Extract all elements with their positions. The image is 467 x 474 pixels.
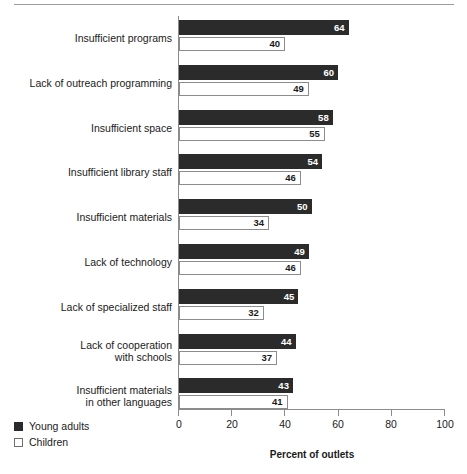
legend-label: Young adults [29, 420, 89, 432]
x-axis-tick-label: 80 [371, 418, 411, 430]
category-label: Insufficient library staff [0, 166, 172, 178]
bar-young-adults: 64 [179, 20, 349, 35]
bar-value-label: 55 [309, 129, 320, 139]
category-label: Lack of cooperation with schools [0, 339, 172, 363]
bar-value-label: 32 [248, 308, 259, 318]
legend-label: Children [29, 436, 68, 448]
bar-value-label: 60 [323, 68, 334, 78]
x-axis-tick [338, 410, 339, 416]
bar-value-label: 58 [318, 113, 329, 123]
bar-young-adults: 45 [179, 289, 298, 304]
bar-young-adults: 60 [179, 65, 338, 80]
x-axis-tick [231, 410, 232, 416]
legend-swatch-outlined-icon [14, 438, 23, 447]
x-axis-tick [391, 410, 392, 416]
bar-value-label: 45 [284, 292, 295, 302]
legend-item-children: Children [14, 434, 89, 450]
legend-swatch-filled-icon [14, 422, 23, 431]
x-axis-tick [284, 410, 285, 416]
bar-value-label: 41 [272, 397, 283, 407]
bar-value-label: 54 [308, 157, 319, 167]
category-label: Insufficient programs [0, 32, 172, 44]
bar-value-label: 34 [254, 218, 265, 228]
bar-value-label: 37 [261, 353, 272, 363]
bar-children: 34 [179, 216, 269, 230]
bar-value-label: 46 [285, 173, 296, 183]
x-axis-tick-label: 0 [159, 418, 199, 430]
chart-figure: Insufficient programs Lack of outreach p… [0, 0, 467, 474]
bar-children: 37 [179, 351, 277, 365]
bar-value-label: 44 [281, 337, 292, 347]
bar-value-label: 46 [285, 263, 296, 273]
bar-children: 49 [179, 82, 309, 96]
x-axis-tick [178, 410, 179, 416]
category-label: Insufficient space [0, 122, 172, 134]
bar-value-label: 49 [293, 84, 304, 94]
legend-item-young-adults: Young adults [14, 418, 89, 434]
category-label: Lack of specialized staff [0, 301, 172, 313]
x-axis-line [178, 409, 445, 410]
bar-young-adults: 58 [179, 110, 333, 125]
bar-value-label: 64 [334, 23, 345, 33]
category-label: Insufficient materials [0, 211, 172, 223]
bar-young-adults: 49 [179, 244, 309, 259]
bar-young-adults: 54 [179, 154, 322, 169]
category-label: Lack of technology [0, 256, 172, 268]
x-axis-tick-label: 40 [265, 418, 305, 430]
plot-area: Insufficient programs Lack of outreach p… [0, 0, 467, 474]
bar-children: 46 [179, 261, 301, 275]
x-axis-title: Percent of outlets [179, 449, 445, 460]
bar-children: 55 [179, 127, 325, 141]
bar-children: 32 [179, 306, 264, 320]
bar-value-label: 43 [278, 381, 289, 391]
x-axis-tick-label: 100 [425, 418, 465, 430]
bar-young-adults: 44 [179, 334, 296, 349]
bar-value-label: 49 [294, 247, 305, 257]
bar-value-label: 40 [269, 39, 280, 49]
category-label: Insufficient materials in other language… [0, 384, 172, 408]
x-axis-tick-label: 60 [318, 418, 358, 430]
bar-young-adults: 43 [179, 378, 293, 393]
chart-legend: Young adults Children [14, 418, 89, 450]
bar-children: 46 [179, 171, 301, 185]
x-axis-tick [444, 410, 445, 416]
y-axis-line [178, 16, 179, 409]
bar-young-adults: 50 [179, 199, 312, 214]
bar-children: 40 [179, 37, 285, 51]
category-label: Lack of outreach programming [0, 77, 172, 89]
x-axis-tick-label: 20 [212, 418, 252, 430]
bar-children: 41 [179, 395, 288, 409]
bar-value-label: 50 [297, 202, 308, 212]
